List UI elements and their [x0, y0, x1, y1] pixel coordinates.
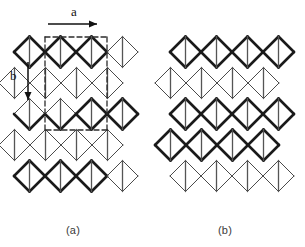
- lattice-figure-svg: [0, 0, 305, 247]
- lattice-vector-b-label: b: [10, 68, 17, 84]
- panel-b-caption: (b): [218, 224, 232, 236]
- figure-canvas: [0, 0, 305, 247]
- lattice-vector-a-label: a: [71, 4, 77, 20]
- panel-a-caption: (a): [66, 224, 80, 236]
